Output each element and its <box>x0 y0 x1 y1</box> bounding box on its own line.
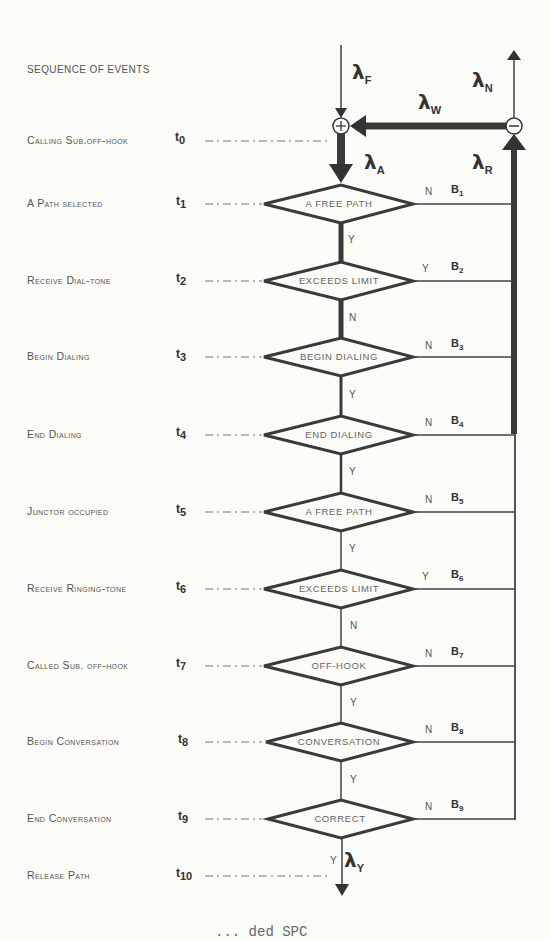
event-label: Release Path <box>27 869 90 881</box>
branch-label: N <box>425 417 432 428</box>
time-label: t2 <box>176 271 186 287</box>
time-label: t9 <box>178 809 188 825</box>
time-label: t6 <box>176 579 186 595</box>
decision-text: A FREE PATH <box>306 198 373 209</box>
continue-label: Y <box>348 234 355 245</box>
block-label: B3 <box>451 337 463 352</box>
lambda-f-label: λF <box>352 60 371 86</box>
block-label: B2 <box>451 260 463 275</box>
time-label: t10 <box>176 866 192 882</box>
lambda-f-arrowhead <box>335 108 347 118</box>
decision-text: A FREE PATH <box>306 506 373 517</box>
time-label: t5 <box>176 502 186 518</box>
event-label: End Conversation <box>27 812 111 824</box>
continue-label: Y <box>350 697 357 708</box>
time-label: t3 <box>176 347 186 363</box>
branch-label: N <box>425 340 432 351</box>
decision-text: CORRECT <box>314 813 365 824</box>
continue-label: N <box>349 312 356 323</box>
time-label: t8 <box>178 732 188 748</box>
branch-label: N <box>425 724 432 735</box>
lambda-r-label: λR <box>472 150 493 176</box>
branch-label: N <box>425 186 432 197</box>
decision-text: OFF-HOOK <box>312 660 367 671</box>
block-label: B7 <box>451 645 463 660</box>
continue-label: Y <box>349 543 356 554</box>
block-label: B4 <box>451 414 463 429</box>
lambda-a-label: λA <box>364 150 385 176</box>
event-label: Called Sub. off-hook <box>27 659 128 671</box>
figure-caption-fragment: ... ded SPC <box>215 924 307 940</box>
decision-text: EXCEEDS LIMIT <box>299 275 379 286</box>
event-label: Begin Conversation <box>27 735 119 747</box>
block-label: B9 <box>451 798 463 813</box>
time-label: t0 <box>175 130 185 146</box>
time-label: t1 <box>176 194 186 210</box>
branch-label: N <box>425 494 432 505</box>
lambda-w-label: λW <box>418 90 441 116</box>
time-label: t7 <box>176 656 186 672</box>
continue-label: Y <box>330 855 337 866</box>
event-label: Begin Dialing <box>27 350 90 362</box>
lambda-y-label: λY <box>344 848 364 874</box>
branch-label: N <box>425 648 432 659</box>
decision-text: CONVERSATION <box>298 736 381 747</box>
continue-label: N <box>350 620 357 631</box>
event-label: Calling Sub.off-hook <box>27 134 128 146</box>
decision-text: EXCEEDS LIMIT <box>299 583 379 594</box>
decision-text: BEGIN DIALING <box>300 351 378 362</box>
lambda-n-label: λN <box>472 68 493 94</box>
decision-text: END DIALING <box>305 429 372 440</box>
block-label: B5 <box>451 491 463 506</box>
continue-label: Y <box>349 466 356 477</box>
branch-label: Y <box>422 263 429 274</box>
block-label: B6 <box>451 568 463 583</box>
event-label: Receive Dial-tone <box>27 274 111 286</box>
event-label: A Path selected <box>27 197 103 209</box>
continue-label: Y <box>350 774 357 785</box>
branch-label: Y <box>422 571 429 582</box>
event-label: End Dialing <box>27 428 82 440</box>
block-label: B1 <box>451 183 463 198</box>
event-label: Receive Ringing-tone <box>27 582 126 594</box>
block-label: B8 <box>451 721 463 736</box>
event-label: Junctor occupied <box>27 505 108 517</box>
time-label: t4 <box>176 425 186 441</box>
branch-label: N <box>425 801 432 812</box>
continue-label: Y <box>349 389 356 400</box>
diagram-title: SEQUENCE OF EVENTS <box>27 64 150 75</box>
